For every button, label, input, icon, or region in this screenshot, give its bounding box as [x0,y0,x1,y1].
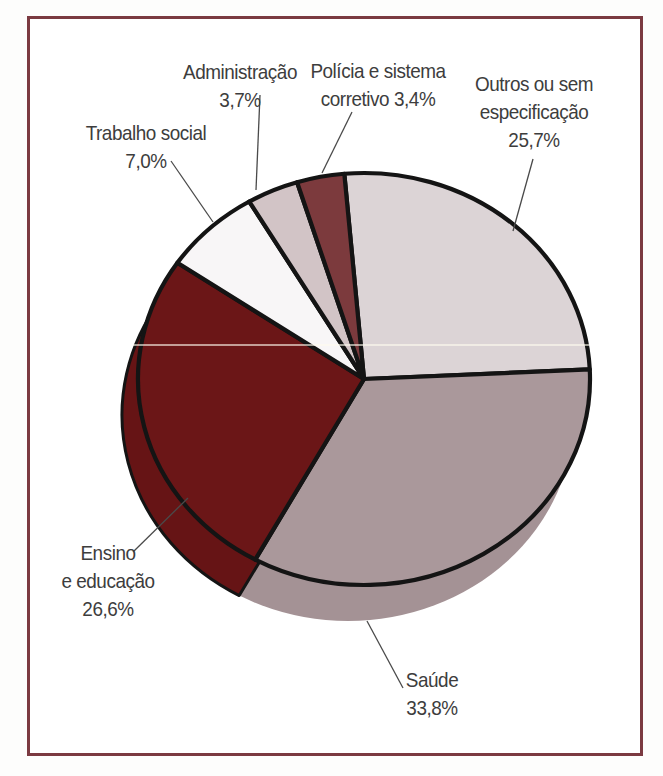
slice-label-ensino: Ensinoe educação26,6% [61,539,154,623]
pie-slice-outros [344,173,589,379]
leader-line-outros [513,159,533,231]
leader-line-policia [322,112,352,173]
leader-line-saude [367,621,403,688]
slice-label-line: e educação [61,567,154,595]
slice-label-line: 3,7% [183,86,297,114]
slice-label-line: 25,7% [475,126,593,154]
slice-label-line: 26,6% [61,595,154,623]
slice-label-line: 33,8% [406,694,458,722]
slice-label-line: Saúde [406,666,458,694]
pie-slices [138,173,590,585]
slice-label-trabalho: Trabalho social7,0% [86,119,207,175]
slice-label-saude: Saúde33,8% [406,666,458,722]
slice-label-line: Trabalho social [86,119,207,147]
slice-label-line: Outros ou sem [475,70,593,98]
slice-label-line: especificação [475,98,593,126]
slice-label-line: Administração [183,58,297,86]
slice-label-line: 7,0% [86,147,207,175]
slice-label-line: Ensino [61,539,154,567]
slice-label-administracao: Administração3,7% [183,58,297,114]
slice-label-policia: Polícia e sistemacorretivo 3,4% [310,57,445,113]
slice-label-outros: Outros ou semespecificação25,7% [475,70,593,154]
figure: Trabalho social7,0%Administração3,7%Polí… [0,0,663,776]
slice-label-line: Polícia e sistema [310,57,445,85]
slice-label-line: corretivo 3,4% [310,85,445,113]
